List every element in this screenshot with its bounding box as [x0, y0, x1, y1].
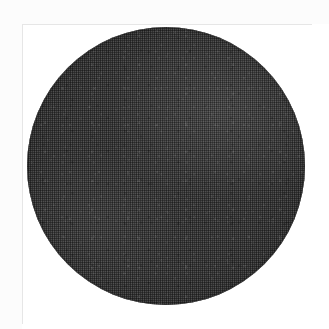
circle-paper-grain-speckle: [27, 27, 305, 305]
scanned-figure-canvas: [0, 0, 329, 329]
panel-left-rule-line: [22, 24, 23, 324]
dark-filled-circle: [27, 27, 305, 305]
dark-circle-figure: [27, 27, 305, 305]
panel-top-rule-line: [22, 24, 312, 25]
